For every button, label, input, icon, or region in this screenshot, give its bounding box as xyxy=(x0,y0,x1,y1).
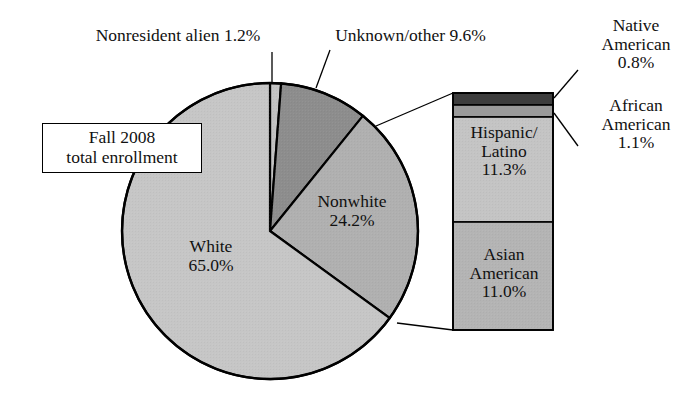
leader-african-american xyxy=(554,113,578,146)
callout-line-2: total enrollment xyxy=(45,148,199,168)
pie-chart-figure: Nonresident alien 1.2% Unknown/other 9.6… xyxy=(0,0,694,408)
label-unknown-other: Unknown/other 9.6% xyxy=(303,26,518,45)
bar-segment-native-american xyxy=(453,93,553,105)
bar-segment-african-american xyxy=(453,105,553,117)
label-white: White 65.0% xyxy=(156,237,266,274)
bar-label-leaders xyxy=(554,70,578,146)
breakout-leader-lower xyxy=(397,323,453,330)
label-hispanic-latino: Hispanic/ Latino 11.3% xyxy=(455,123,553,179)
callout-line-1: Fall 2008 xyxy=(45,128,199,148)
label-nonresident-alien: Nonresident alien 1.2% xyxy=(58,26,298,45)
total-enrollment-callout: Fall 2008 total enrollment xyxy=(42,123,202,173)
breakout-leader-upper xyxy=(376,93,453,126)
label-native-american: Native American 0.8% xyxy=(584,16,688,72)
label-african-american: African American 1.1% xyxy=(584,96,688,152)
label-nonwhite: Nonwhite 24.2% xyxy=(292,192,412,229)
label-asian-american: Asian American 11.0% xyxy=(455,245,553,301)
leader-unknown-other xyxy=(316,50,330,88)
leader-native-american xyxy=(554,70,578,98)
